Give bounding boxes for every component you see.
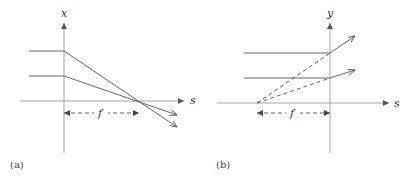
virtual-ray-lower [257, 78, 330, 103]
panel-b: y s f (b) [216, 7, 400, 170]
panel-a-caption: (a) [10, 159, 24, 170]
y-axis-label: y [326, 7, 334, 20]
s-axis-label-b: s [394, 97, 400, 110]
panel-a: x s f (a) [10, 7, 196, 170]
s-axis-label: s [190, 94, 196, 107]
x-axis-label: x [61, 7, 68, 20]
optics-diagram: x s f (a) y s f (b) [0, 0, 415, 183]
ray-upper-b [244, 36, 355, 53]
panel-b-caption: (b) [216, 159, 230, 170]
